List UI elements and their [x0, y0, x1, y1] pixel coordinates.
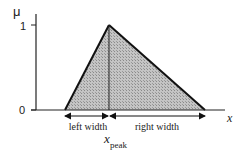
right-width-label: right width: [135, 121, 179, 132]
peak-label-subscript: peak: [110, 140, 127, 150]
left-width-label: left width: [69, 121, 108, 132]
membership-function-diagram: μ 1 0 x left width right width x peak: [0, 0, 252, 154]
peak-label: x: [103, 131, 110, 146]
y-tick-label-1: 1: [20, 20, 26, 32]
y-tick-label-0: 0: [19, 104, 25, 116]
y-axis-label: μ: [13, 4, 21, 19]
peak-label-main: x: [103, 131, 110, 146]
x-axis-label: x: [226, 111, 233, 125]
